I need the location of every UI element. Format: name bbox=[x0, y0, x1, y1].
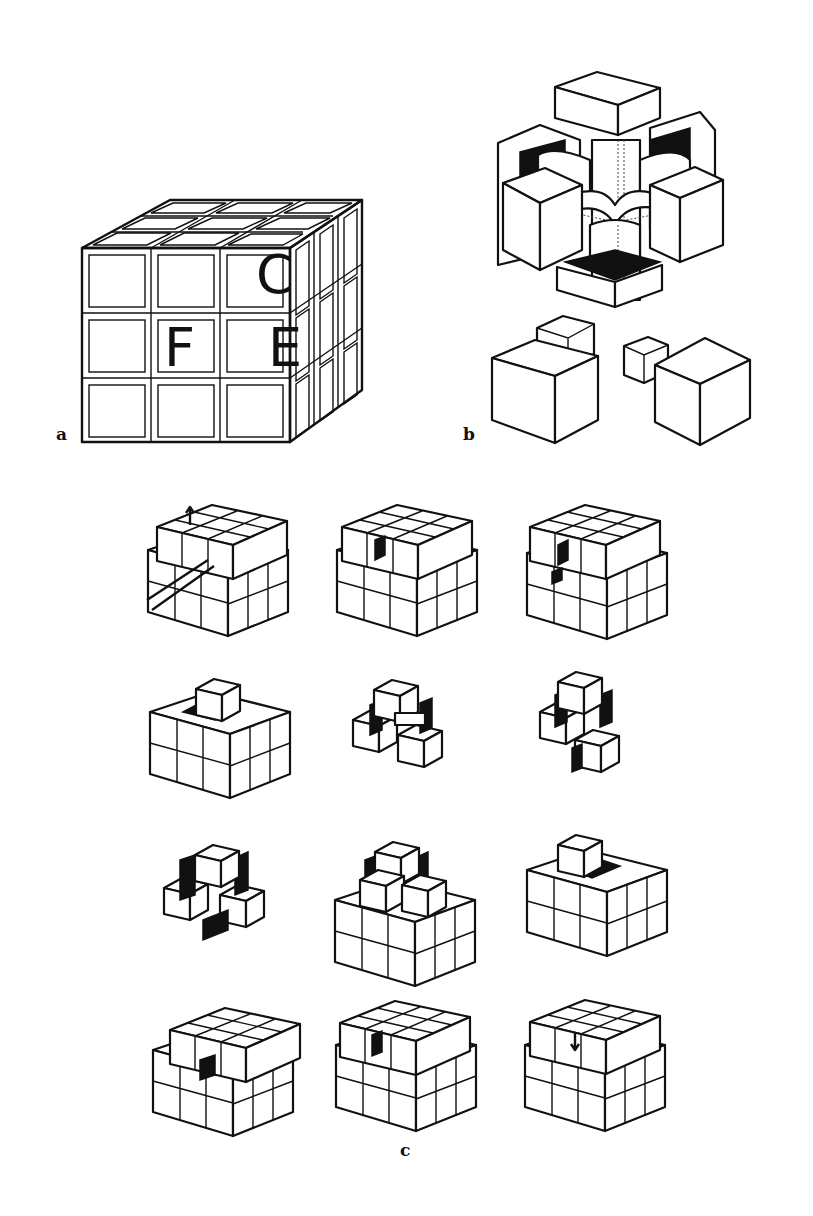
panel-label-a: a bbox=[56, 424, 67, 444]
step-6 bbox=[540, 672, 619, 772]
face-letter-f: F bbox=[164, 316, 195, 379]
step-10 bbox=[153, 1008, 300, 1136]
panel-label-c: c bbox=[400, 1140, 410, 1160]
panel-b-exploded-core bbox=[492, 72, 750, 445]
step-8 bbox=[335, 842, 475, 986]
step-2 bbox=[337, 505, 477, 636]
step-9 bbox=[527, 835, 667, 956]
figure-canvas: C F E bbox=[0, 0, 813, 1216]
panel-a-cube: C F E bbox=[82, 200, 362, 442]
step-12 bbox=[525, 1000, 665, 1131]
step-7 bbox=[164, 845, 264, 940]
step-3 bbox=[527, 505, 667, 639]
step-1 bbox=[147, 505, 288, 636]
step-4 bbox=[150, 679, 290, 798]
step-5 bbox=[353, 680, 442, 767]
step-11 bbox=[336, 1001, 476, 1131]
face-letter-c: C bbox=[256, 243, 294, 306]
panel-label-b: b bbox=[463, 424, 475, 444]
face-letter-e: E bbox=[268, 316, 302, 379]
panel-c-sequence bbox=[147, 505, 667, 1136]
